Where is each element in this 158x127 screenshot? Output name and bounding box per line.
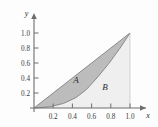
y-tick-label-1: 0.4 bbox=[21, 75, 30, 83]
y-tick-label-3: 0.8 bbox=[21, 45, 30, 53]
figure-canvas: 0.2 0.4 0.6 0.8 1.0 0.2 0.4 0.6 0.8 1.0 … bbox=[0, 0, 158, 127]
y-tick-label-2: 0.6 bbox=[21, 60, 30, 68]
y-tick-label-0: 0.2 bbox=[21, 90, 30, 98]
x-tick-label-4: 1.0 bbox=[126, 113, 135, 121]
plot-svg: 0.2 0.4 0.6 0.8 1.0 0.2 0.4 0.6 0.8 1.0 … bbox=[0, 0, 158, 127]
y-axis-label: y bbox=[24, 9, 29, 18]
x-axis-arrow-icon bbox=[140, 105, 146, 111]
y-tick-label-4: 1.0 bbox=[21, 30, 30, 38]
x-tick-label-0: 0.2 bbox=[49, 113, 58, 121]
y-tick-marks bbox=[34, 33, 39, 93]
x-tick-label-2: 0.6 bbox=[87, 113, 96, 121]
x-axis-label: x bbox=[145, 111, 150, 120]
y-axis-arrow-icon bbox=[31, 13, 37, 19]
region-label-a: A bbox=[72, 75, 79, 85]
x-tick-label-1: 0.4 bbox=[68, 113, 77, 121]
region-label-b: B bbox=[102, 82, 108, 92]
x-tick-label-3: 0.8 bbox=[106, 113, 115, 121]
